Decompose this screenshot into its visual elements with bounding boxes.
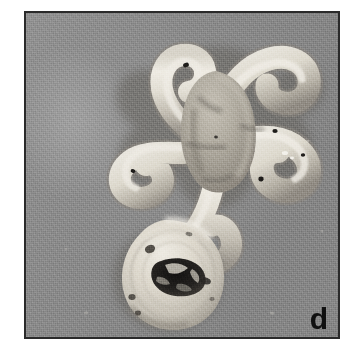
panel-letter-label: d <box>310 304 328 334</box>
photograph-frame: d <box>24 11 340 339</box>
figure-panel: d <box>0 0 348 351</box>
film-grain-overlay-secondary <box>24 11 340 339</box>
